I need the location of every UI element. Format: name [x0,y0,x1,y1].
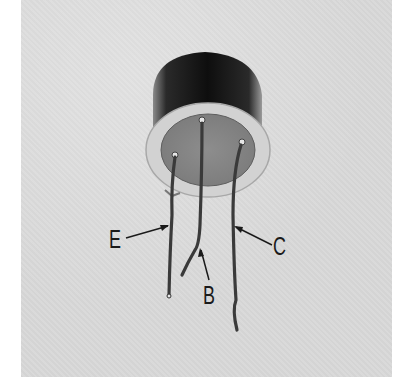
transistor-illustration [0,0,404,389]
label-base: B [203,283,215,308]
label-emitter: E [109,227,121,252]
arrow-base [198,248,209,280]
arrow-collector [234,226,272,245]
transistor-can [146,52,270,197]
arrow-emitter [126,225,169,238]
label-collector: C [273,234,286,259]
